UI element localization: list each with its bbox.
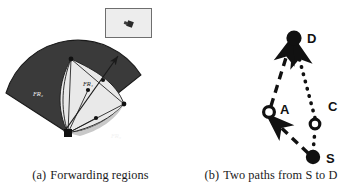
forwarding-regions-svg: FR₂ FR₁ FR₃ (0, 0, 181, 168)
caption-tag-b: (b) (205, 168, 220, 183)
edge-s-c (313, 130, 315, 152)
node-d (286, 30, 301, 45)
panel-two-paths: D A C S (b) Two paths from S to D (181, 0, 361, 195)
node-a (264, 107, 275, 118)
node-label-a: A (280, 102, 290, 117)
node-e (94, 116, 98, 120)
path-s-c-d (297, 50, 315, 152)
node-c (310, 119, 320, 129)
two-paths-svg: D A C S (181, 0, 361, 168)
node-a (69, 57, 74, 62)
node-b (122, 102, 127, 107)
edge-c-d (297, 50, 315, 118)
label-fr2: FR₂ (32, 90, 44, 97)
two-paths-nodes (264, 30, 321, 164)
node-s (306, 150, 320, 164)
edge-a-d (271, 48, 289, 106)
caption-text-a: Forwarding regions (50, 168, 148, 183)
node-label-d: D (307, 31, 316, 46)
figure-container: FR₂ FR₁ FR₃ (a) Forwarding regions (0, 0, 361, 195)
edge-s-a (275, 122, 308, 153)
label-fr1: FR₁ (82, 80, 93, 87)
forwarding-regions-diagram: FR₂ FR₁ FR₃ (0, 0, 181, 168)
node-d (101, 78, 105, 82)
caption-tag-a: (a) (32, 168, 46, 183)
caption-panel-a: (a) Forwarding regions (0, 168, 181, 195)
node-label-c: C (328, 99, 338, 114)
path-s-a-d (271, 48, 308, 153)
caption-panel-b: (b) Two paths from S to D (181, 168, 361, 195)
node-label-s: S (326, 151, 335, 166)
node-apex-s (64, 129, 72, 137)
panel-forwarding-regions: FR₂ FR₁ FR₃ (a) Forwarding regions (0, 0, 181, 195)
two-paths-diagram: D A C S (181, 0, 361, 168)
caption-text-b: Two paths from S to D (223, 168, 337, 183)
label-fr3: FR₃ (110, 132, 121, 139)
node-c (86, 88, 90, 92)
